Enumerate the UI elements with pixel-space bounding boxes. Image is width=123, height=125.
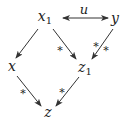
edge-label-y-z1-right: * [103, 45, 109, 56]
node-x: x [8, 59, 16, 73]
edge-label-y-z1-left: * [93, 41, 99, 52]
node-x1-sub: 1 [46, 15, 52, 26]
node-x1-base: x [38, 8, 46, 24]
edge-label-x1-z1: * [57, 45, 63, 56]
edge-x1-x [16, 29, 38, 58]
edge-label-z1-z: * [59, 87, 65, 98]
node-z-base: z [44, 104, 51, 120]
diagram-edges [0, 0, 123, 125]
node-z: z [44, 105, 51, 119]
edge-label-u: u [80, 3, 88, 16]
commutative-diagram: x1 y x z1 z u * * * * * [0, 0, 123, 125]
edge-label-x-z: * [20, 88, 26, 99]
node-y-base: y [111, 10, 119, 26]
node-z1: z1 [78, 60, 92, 77]
node-x-base: x [8, 58, 16, 74]
node-x1: x1 [38, 9, 52, 26]
node-y: y [111, 11, 119, 25]
node-z1-sub: 1 [86, 66, 92, 77]
